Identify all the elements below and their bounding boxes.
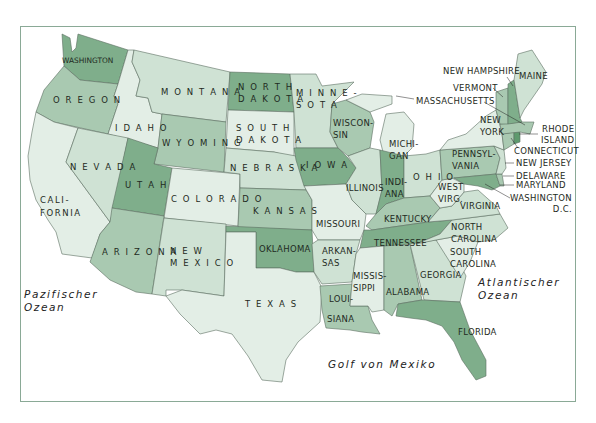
label-kentucky: KENTUCKY [384, 214, 432, 224]
label-colorado: C O L O R A D O [171, 194, 263, 204]
label-maryland: MARYLAND [516, 180, 566, 190]
label-utah: U T A H [125, 180, 168, 190]
label-west-virginia: WEST VIRG. [438, 181, 464, 205]
label-indiana: INDI- ANA [385, 176, 407, 200]
label-new-hampshire: NEW HAMPSHIRE [443, 66, 520, 76]
label-michigan: MICHI- GAN [389, 138, 419, 162]
label-north-dakota: N O R T H D A K O T A [238, 81, 305, 105]
label-alabama: ALABAMA [386, 287, 429, 297]
label-vermont: VERMONT [453, 83, 498, 93]
label-florida: FLORIDA [458, 327, 497, 337]
label-minnesota: M I N N E - S O T A [296, 87, 358, 111]
label-new-york: NEW YORK [480, 114, 504, 138]
label-mississippi: MISSIS- SIPPI [353, 270, 387, 294]
label-massachusetts: MASSACHUSETTS [416, 96, 495, 106]
label-rhode-island: RHODE ISLAND [541, 124, 574, 146]
label-tennessee: TENNESSEE [374, 238, 427, 248]
label-virginia: VIRGINIA [460, 201, 500, 211]
label-wyoming: W Y O M I N G [162, 138, 242, 148]
label-louisiana-2: SIANA [327, 314, 354, 324]
label-idaho: I D A H O [115, 123, 168, 133]
label-wisconsin: WISCON- SIN [333, 117, 373, 141]
label-south-dakota: S O U T H D A K O T A [236, 122, 303, 146]
label-washington: WASHINGTON [62, 56, 113, 65]
label-washington-dc: WASHINGTON D.C. [510, 193, 572, 215]
label-nevada: N E V A D A [70, 162, 137, 172]
label-pennsylvania: PENNSYL- VANIA [452, 148, 496, 172]
label-atlantic-ocean: Atlantischer Ozean [478, 276, 560, 302]
label-north-carolina: NORTH CAROLINA [451, 221, 497, 245]
label-new-jersey: NEW JERSEY [516, 158, 572, 168]
label-connecticut: CONNECTICUT [514, 146, 579, 156]
label-texas: T E X A S [245, 299, 298, 309]
caption-cutoff [20, 408, 576, 420]
label-missouri: MISSOURI [316, 219, 360, 229]
label-south-carolina: SOUTH CAROLINA [450, 246, 496, 270]
label-arkansas: ARKAN- SAS [322, 245, 356, 269]
label-montana: M O N T A N A [161, 87, 242, 97]
label-oklahoma: OKLAHOMA [259, 244, 311, 254]
label-california: CALI- FORNIA [40, 194, 82, 220]
label-iowa: I O W A [306, 160, 349, 170]
leader-michigan-up [396, 96, 414, 99]
label-illinois: ILLINOIS [346, 183, 384, 193]
label-oregon: O R E G O N [53, 95, 122, 105]
label-louisiana-1: LOUI- [329, 294, 353, 304]
label-pacific-ocean: Pazifischer Ozean [24, 288, 98, 314]
state-maine[interactable] [514, 50, 546, 118]
label-maine: MAINE [519, 71, 548, 81]
label-georgia: GEORGIA [420, 270, 462, 280]
label-new-mexico: N E W M E X I C O [170, 245, 235, 269]
label-arizona: A R I Z O N A [102, 247, 178, 257]
label-kansas: K A N S A S [253, 206, 318, 216]
label-gulf-of-mexico: Golf von Mexiko [328, 358, 436, 371]
